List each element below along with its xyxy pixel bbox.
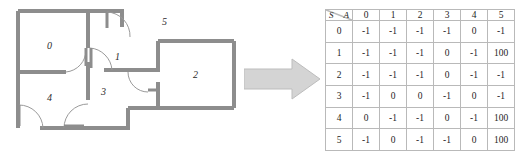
q-cell-1-3: 0 <box>434 42 461 64</box>
q-cell-2-3: 0 <box>434 64 461 86</box>
floor-plan-diagram: 0 1 2 3 4 5 <box>0 0 250 158</box>
table-row: 4 0 -1 -1 0 -1 100 <box>326 107 515 129</box>
q-table-head: A S 0 1 2 3 4 5 <box>326 10 515 21</box>
door-arc-3-bottom <box>64 104 88 128</box>
q-table-container: A S 0 1 2 3 4 5 0 -1 -1 -1 -1 <box>325 9 515 151</box>
q-cell-2-5: -1 <box>488 64 515 86</box>
door-arc-1-3 <box>90 48 112 70</box>
transition-arrow <box>244 58 322 100</box>
q-cell-4-1: -1 <box>380 107 407 129</box>
q-cell-1-2: -1 <box>407 42 434 64</box>
room-label-5: 5 <box>162 17 167 27</box>
table-row: 3 -1 0 0 -1 0 -1 <box>326 85 515 107</box>
q-cell-5-1: 0 <box>380 129 407 151</box>
q-cell-2-0: -1 <box>353 64 380 86</box>
q-table-row-header-5: 5 <box>326 129 353 151</box>
table-row: 2 -1 -1 -1 0 -1 -1 <box>326 64 515 86</box>
q-cell-1-0: -1 <box>353 42 380 64</box>
q-cell-3-3: -1 <box>434 85 461 107</box>
q-cell-0-0: -1 <box>353 21 380 43</box>
right-arrow-icon <box>244 58 322 100</box>
q-cell-4-4: -1 <box>461 107 488 129</box>
q-table-header-row: A S 0 1 2 3 4 5 <box>326 10 515 21</box>
room-label-0: 0 <box>47 41 52 51</box>
table-row: 1 -1 -1 -1 0 -1 100 <box>326 42 515 64</box>
room-label-4: 4 <box>47 93 52 103</box>
q-cell-4-3: 0 <box>434 107 461 129</box>
q-cell-3-4: 0 <box>461 85 488 107</box>
q-table-col-header-0: 0 <box>353 10 380 21</box>
q-cell-4-0: 0 <box>353 107 380 129</box>
q-cell-4-5: 100 <box>488 107 515 129</box>
q-cell-3-2: 0 <box>407 85 434 107</box>
room-label-2: 2 <box>193 70 198 80</box>
table-row: 0 -1 -1 -1 -1 0 -1 <box>326 21 515 43</box>
door-arc-0-4 <box>66 50 86 72</box>
q-cell-5-3: -1 <box>434 129 461 151</box>
figure-root: 0 1 2 3 4 5 A S 0 <box>0 0 521 158</box>
room-label-1: 1 <box>115 52 120 62</box>
floor-plan-svg <box>0 0 250 158</box>
q-cell-1-4: -1 <box>461 42 488 64</box>
q-cell-4-2: -1 <box>407 107 434 129</box>
q-table-col-header-4: 4 <box>461 10 488 21</box>
row-axis-label: S <box>329 10 334 20</box>
q-cell-0-4: 0 <box>461 21 488 43</box>
q-table-row-header-0: 0 <box>326 21 353 43</box>
q-table-row-header-3: 3 <box>326 85 353 107</box>
door-arc-1-2 <box>128 72 148 92</box>
table-row: 5 -1 0 -1 -1 0 100 <box>326 129 515 151</box>
q-table-body: 0 -1 -1 -1 -1 0 -1 1 -1 -1 -1 0 -1 100 <box>326 21 515 151</box>
q-cell-1-5: 100 <box>488 42 515 64</box>
q-cell-5-2: -1 <box>407 129 434 151</box>
q-cell-5-4: 0 <box>461 129 488 151</box>
q-cell-2-1: -1 <box>380 64 407 86</box>
q-table-col-header-5: 5 <box>488 10 515 21</box>
q-cell-0-1: -1 <box>380 21 407 43</box>
q-cell-2-4: -1 <box>461 64 488 86</box>
walls <box>18 11 234 128</box>
q-table-row-header-2: 2 <box>326 64 353 86</box>
q-cell-0-3: -1 <box>434 21 461 43</box>
door-arc-1-5 <box>107 12 130 37</box>
q-table-corner-cell: A S <box>326 10 353 21</box>
q-cell-1-1: -1 <box>380 42 407 64</box>
q-cell-3-5: -1 <box>488 85 515 107</box>
q-cell-0-5: -1 <box>488 21 515 43</box>
q-table-col-header-3: 3 <box>434 10 461 21</box>
q-cell-2-2: -1 <box>407 64 434 86</box>
q-cell-3-1: 0 <box>380 85 407 107</box>
room-label-3: 3 <box>101 87 106 97</box>
q-cell-0-2: -1 <box>407 21 434 43</box>
q-cell-5-0: -1 <box>353 129 380 151</box>
col-axis-label: A <box>344 10 350 20</box>
q-table: A S 0 1 2 3 4 5 0 -1 -1 -1 -1 <box>325 9 515 151</box>
q-table-col-header-2: 2 <box>407 10 434 21</box>
q-table-col-header-1: 1 <box>380 10 407 21</box>
q-table-row-header-1: 1 <box>326 42 353 64</box>
door-arc-4-exterior <box>19 105 43 128</box>
q-cell-3-0: -1 <box>353 85 380 107</box>
q-cell-5-5: 100 <box>488 129 515 151</box>
q-table-row-header-4: 4 <box>326 107 353 129</box>
